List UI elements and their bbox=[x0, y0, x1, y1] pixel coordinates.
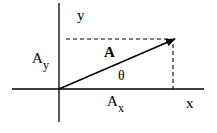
ay-subscript: y bbox=[43, 58, 49, 72]
angle-label: θ bbox=[118, 68, 125, 83]
ax-subscript: x bbox=[118, 101, 124, 115]
ax-main: A bbox=[107, 93, 118, 109]
ax-label: A x bbox=[107, 93, 124, 115]
x-axis-label: x bbox=[186, 95, 194, 111]
ay-label: A y bbox=[32, 50, 49, 72]
vector-diagram: y x A θ A y A x bbox=[0, 0, 217, 133]
y-axis-label: y bbox=[77, 7, 85, 23]
ay-main: A bbox=[32, 50, 43, 66]
vector-label: A bbox=[104, 44, 115, 60]
vector-a-arrow bbox=[59, 39, 175, 89]
